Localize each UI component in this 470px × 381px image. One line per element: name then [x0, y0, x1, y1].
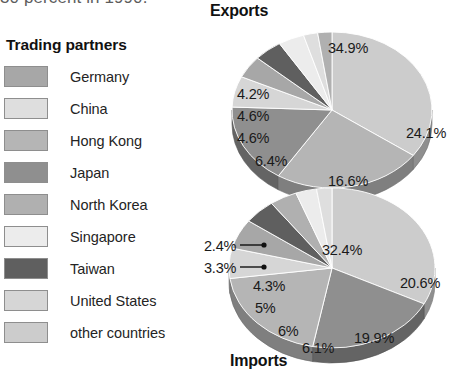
pie-value-label: 19.9%: [354, 330, 394, 346]
imports-title: Imports: [230, 352, 287, 370]
pie-value-label: 4.3%: [253, 278, 285, 294]
legend-label-japan: Japan: [70, 165, 109, 181]
legend-item-china: China: [4, 96, 194, 121]
exports-pie-chart: 34.9%24.1%16.6%6.4%4.6%4.6%4.2%: [210, 18, 460, 203]
legend-label-hong-kong: Hong Kong: [70, 133, 142, 149]
legend-item-taiwan: Taiwan: [4, 256, 194, 281]
legend-item-singapore: Singapore: [4, 224, 194, 249]
cut-off-text-fragment: 30 percent in 1990.: [0, 0, 220, 10]
legend-item-japan: Japan: [4, 160, 194, 185]
legend-swatch-germany: [4, 66, 48, 87]
legend-swatch-china: [4, 98, 48, 119]
pie-value-label: 6.1%: [302, 340, 334, 356]
legend-item-hong-kong: Hong Kong: [4, 128, 194, 153]
legend-item-north-korea: North Korea: [4, 192, 194, 217]
legend-label-north-korea: North Korea: [70, 197, 148, 213]
pie-value-label: 5%: [255, 300, 276, 316]
legend-label-singapore: Singapore: [70, 229, 136, 245]
cut-off-text: 30 percent in 1990.: [0, 0, 220, 8]
legend: Trading partners GermanyChinaHong KongJa…: [4, 36, 194, 352]
legend-item-other-countries: other countries: [4, 320, 194, 345]
pie-value-label: 20.6%: [400, 275, 440, 291]
charts-container: Exports 34.9%24.1%16.6%6.4%4.6%4.6%4.2% …: [188, 0, 470, 381]
legend-label-germany: Germany: [70, 69, 129, 85]
pie-value-label: 4.6%: [237, 130, 269, 146]
pie-value-label: 4.6%: [237, 108, 269, 124]
legend-item-germany: Germany: [4, 64, 194, 89]
legend-swatch-singapore: [4, 226, 48, 247]
legend-label-china: China: [70, 101, 108, 117]
legend-item-united-states: United States: [4, 288, 194, 313]
legend-swatch-other-countries: [4, 322, 48, 343]
infographic-root: 30 percent in 1990. Trading partners Ger…: [0, 0, 470, 381]
pie-value-label: 2.4%: [204, 238, 236, 254]
legend-label-united-states: United States: [70, 293, 156, 309]
legend-swatch-japan: [4, 162, 48, 183]
legend-items: GermanyChinaHong KongJapanNorth KoreaSin…: [4, 64, 194, 345]
pie-value-label: 3.3%: [204, 260, 236, 276]
legend-swatch-north-korea: [4, 194, 48, 215]
legend-swatch-hong-kong: [4, 130, 48, 151]
pie-value-label: 32.4%: [322, 242, 362, 258]
pie-value-label: 6%: [278, 323, 299, 339]
pie-value-label: 4.2%: [237, 86, 269, 102]
legend-title: Trading partners: [6, 36, 194, 54]
legend-swatch-taiwan: [4, 258, 48, 279]
legend-label-taiwan: Taiwan: [70, 261, 115, 277]
legend-swatch-united-states: [4, 290, 48, 311]
imports-pie-chart: 32.4%20.6%19.9%6.1%6%5%4.3%3.3%2.4%: [202, 180, 464, 366]
legend-label-other-countries: other countries: [70, 325, 165, 341]
pie-value-label: 24.1%: [406, 125, 446, 141]
pie-value-label: 6.4%: [255, 153, 287, 169]
pie-value-label: 34.9%: [328, 40, 368, 56]
